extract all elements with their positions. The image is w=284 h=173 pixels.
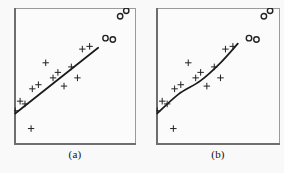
panel-a-plot-area xyxy=(14,8,136,145)
panel-a-label: (a) xyxy=(14,148,136,160)
panel-a-outlier-markers xyxy=(103,8,129,42)
panel-b-plot-area xyxy=(156,8,280,145)
panel-b-label: (b) xyxy=(156,148,280,160)
panel-b xyxy=(156,8,280,145)
panel-b-fit-curve xyxy=(157,44,238,114)
panel-a xyxy=(14,8,136,145)
panel-b-inlier-markers xyxy=(156,43,236,132)
panel-b-outlier-markers xyxy=(246,8,273,42)
figure-container: (a) (b) xyxy=(0,0,284,173)
panel-a-inlier-markers xyxy=(14,43,93,132)
